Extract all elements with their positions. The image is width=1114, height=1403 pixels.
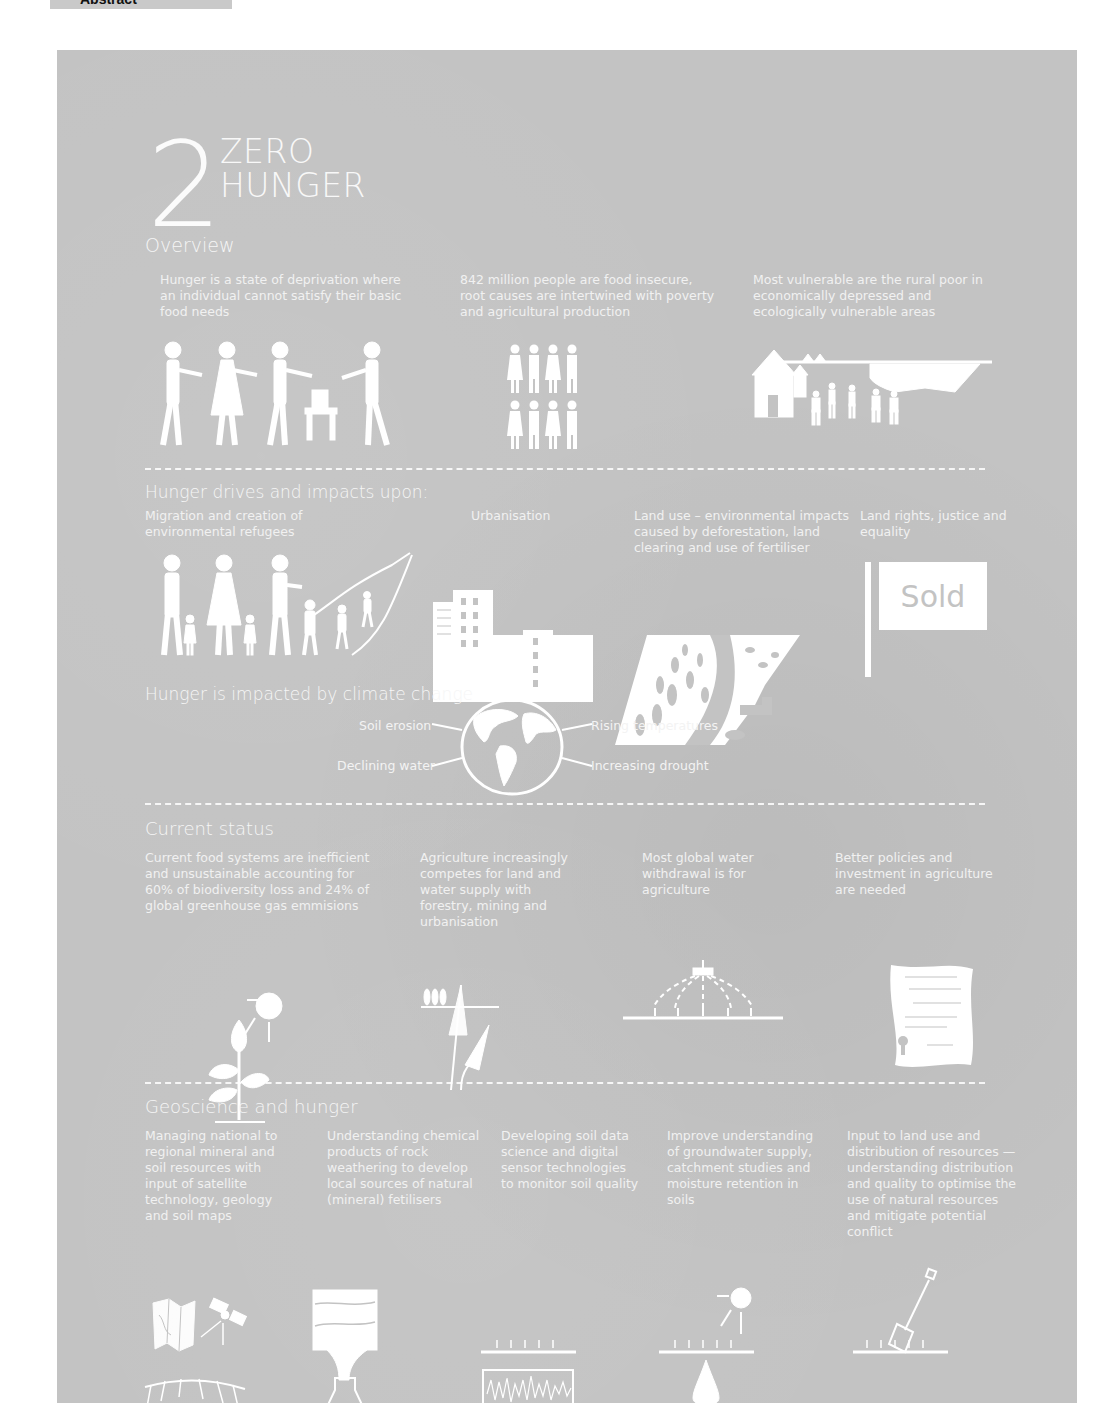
sold-sign-text: Sold: [901, 579, 966, 614]
current-text-3: Most global water withdrawal is for agri…: [642, 850, 772, 898]
globe-icon: [432, 700, 592, 800]
current-text-4: Better policies and investment in agricu…: [835, 850, 1000, 898]
label-increasing-drought: Increasing drought: [591, 758, 709, 773]
infographic-panel: 2 ZERO HUNGER Overview Hunger is a state…: [57, 50, 1077, 1403]
soil-sensor-waveform-icon: [481, 1340, 576, 1403]
policy-document-icon: [887, 965, 977, 1075]
drives-text-2: Urbanisation: [471, 508, 611, 524]
current-text-1: Current food systems are inefficient and…: [145, 850, 370, 914]
sold-sign-icon: Sold: [865, 562, 990, 677]
section-divider: [145, 803, 985, 805]
map-and-satellite-icon: [145, 1295, 245, 1403]
section-divider: [145, 468, 985, 470]
drives-text-1: Migration and creation of environmental …: [145, 508, 395, 540]
overview-heading: Overview: [145, 234, 234, 256]
current-text-2: Agriculture increasingly competes for la…: [420, 850, 585, 930]
irrigation-sprinkler-icon: [623, 968, 783, 1033]
wheat-and-trees-icon: [421, 985, 541, 1095]
spade-in-soil-icon: [853, 1280, 948, 1355]
geoscience-text-2: Understanding chemical products of rock …: [327, 1128, 482, 1208]
goal-title-line2: HUNGER: [220, 168, 366, 204]
label-declining-water: Declining water: [337, 758, 435, 773]
geoscience-text-5: Input to land use and distribution of re…: [847, 1128, 1022, 1240]
rock-layers-flask-icon: [313, 1290, 383, 1403]
group-of-people-icon: [507, 343, 587, 453]
people-sharing-food-icon: [157, 340, 417, 450]
overview-text-1: Hunger is a state of deprivation where a…: [160, 272, 420, 320]
drives-text-4: Land rights, justice and equality: [860, 508, 1040, 540]
abstract-tab[interactable]: Abstract: [50, 0, 232, 9]
migrating-family-icon: [152, 555, 422, 660]
overview-text-3: Most vulnerable are the rural poor in ec…: [753, 272, 993, 320]
label-rising-temperatures: Rising temperatures: [591, 718, 718, 733]
geoscience-text-4: Improve understanding of groundwater sup…: [667, 1128, 817, 1208]
section-divider: [145, 1082, 985, 1084]
label-soil-erosion: Soil erosion: [359, 718, 431, 733]
geoscience-text-1: Managing national to regional mineral an…: [145, 1128, 285, 1224]
overview-text-2: 842 million people are food insecure, ro…: [460, 272, 720, 320]
drives-text-3: Land use – environmental impacts caused …: [634, 508, 854, 556]
abstract-tab-label: Abstract: [80, 0, 137, 7]
current-heading: Current status: [145, 818, 274, 839]
goal-number: 2: [147, 135, 222, 235]
climate-heading: Hunger is impacted by climate change: [145, 684, 473, 704]
groundwater-drop-icon: [659, 1290, 754, 1403]
rural-village-icon: [752, 350, 992, 460]
geoscience-text-3: Developing soil data science and digital…: [501, 1128, 641, 1192]
geoscience-heading: Geoscience and hunger: [145, 1096, 358, 1117]
goal-title-line1: ZERO: [220, 134, 314, 170]
drives-heading: Hunger drives and impacts upon:: [145, 482, 428, 502]
